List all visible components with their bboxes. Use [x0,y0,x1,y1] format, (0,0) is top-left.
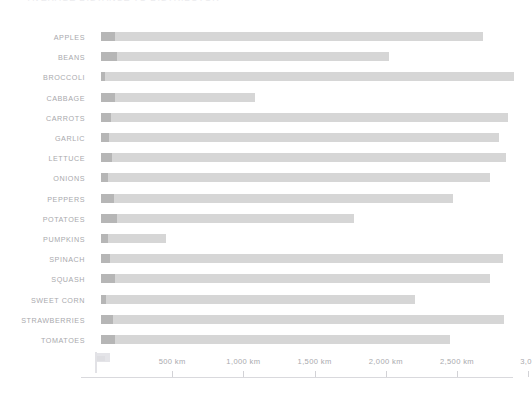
bar-segment-distant[interactable] [115,93,256,102]
stacked-bar[interactable] [101,72,514,81]
bar-segment-local[interactable] [101,133,109,142]
bar-row: BEANS [0,48,513,68]
bar-segment-local[interactable] [101,52,117,61]
axis-tick-label: 2,000 km [369,357,403,366]
axis-tick-label: 500 km [159,357,186,366]
category-label: PEPPERS [0,195,85,204]
axis-tick-label: 2,500 km [440,357,474,366]
stacked-bar[interactable] [101,214,354,223]
stacked-bar[interactable] [101,32,483,41]
category-label: SPINACH [0,255,85,264]
axis-tick [172,371,173,377]
category-label: BROCCOLI [0,73,85,82]
bar-row: PEPPERS [0,190,513,210]
category-label: ONIONS [0,174,85,183]
bar-segment-distant[interactable] [115,335,450,344]
bar-segment-local[interactable] [101,113,111,122]
x-axis-line [81,377,513,378]
bar-row: STRAWBERRIES [0,311,513,331]
bar-segment-distant[interactable] [108,234,166,243]
stacked-bar[interactable] [101,315,504,324]
bar-row: APPLES [0,28,513,48]
bar-segment-distant[interactable] [111,113,508,122]
axis-tick [528,371,529,377]
category-label: CABBAGE [0,94,85,103]
bar-segment-local[interactable] [101,173,108,182]
axis-tick-label: 1,500 km [298,357,332,366]
axis-tick [243,371,244,377]
bar-segment-local[interactable] [101,335,115,344]
bar-row: ONIONS [0,169,513,189]
bar-row: POTATOES [0,210,513,230]
bar-row: PUMPKINS [0,230,513,250]
bar-segment-local[interactable] [101,315,113,324]
bar-segment-distant[interactable] [114,194,453,203]
bar-row: SQUASH [0,270,513,290]
stacked-bar[interactable] [101,234,167,243]
bar-row: TOMATOES [0,331,513,351]
bar-row: SWEET CORN [0,291,513,311]
bar-row: CABBAGE [0,89,513,109]
stacked-bar[interactable] [101,194,453,203]
category-label: APPLES [0,33,85,42]
stacked-bar[interactable] [101,153,506,162]
bar-segment-distant[interactable] [113,315,504,324]
bar-segment-distant[interactable] [115,32,482,41]
page-title: AVERAGE DISTANCE TO DISTRIBUTOR [28,0,219,3]
stacked-bar[interactable] [101,254,503,263]
bar-segment-distant[interactable] [108,173,490,182]
flag-banner-shade [97,356,105,361]
bar-segment-distant[interactable] [117,214,354,223]
category-label: STRAWBERRIES [0,316,85,325]
axis-tick-label: 3,0 [520,357,532,366]
stacked-bar[interactable] [101,295,415,304]
category-label: SQUASH [0,275,85,284]
bar-segment-local[interactable] [101,32,115,41]
axis-tick-label: 1,000 km [226,357,260,366]
bar-segment-distant[interactable] [117,52,389,61]
category-label: TOMATOES [0,336,85,345]
bar-segment-distant[interactable] [115,274,490,283]
stacked-bar[interactable] [101,113,508,122]
stacked-bar[interactable] [101,93,256,102]
stacked-bar[interactable] [101,274,490,283]
axis-tick [386,371,387,377]
bar-segment-distant[interactable] [110,254,503,263]
bar-segment-local[interactable] [101,214,117,223]
axis-tick [315,371,316,377]
bar-row: LETTUCE [0,149,513,169]
bar-row: GARLIC [0,129,513,149]
category-label: LETTUCE [0,154,85,163]
bar-segment-local[interactable] [101,153,112,162]
category-label: GARLIC [0,134,85,143]
category-label: PUMPKINS [0,235,85,244]
bar-segment-local[interactable] [101,93,115,102]
stacked-bar[interactable] [101,173,490,182]
bar-segment-distant[interactable] [109,133,499,142]
bar-segment-distant[interactable] [106,295,415,304]
bar-row: SPINACH [0,250,513,270]
bar-segment-local[interactable] [101,274,115,283]
bar-row: CARROTS [0,109,513,129]
bar-row: BROCCOLI [0,68,513,88]
category-label: SWEET CORN [0,296,85,305]
category-label: BEANS [0,53,85,62]
stacked-bar[interactable] [101,133,499,142]
bar-segment-distant[interactable] [105,72,514,81]
category-label: CARROTS [0,114,85,123]
stacked-bar[interactable] [101,52,389,61]
category-label: POTATOES [0,215,85,224]
axis-tick [457,371,458,377]
bar-segment-local[interactable] [101,234,108,243]
stacked-bar[interactable] [101,335,450,344]
flag-icon [95,352,115,374]
bar-segment-distant[interactable] [112,153,506,162]
bar-segment-local[interactable] [101,254,110,263]
bar-segment-local[interactable] [101,194,114,203]
